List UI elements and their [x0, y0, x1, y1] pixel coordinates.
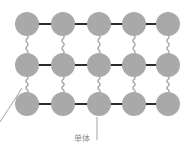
monomer-node: [15, 12, 39, 36]
monomer-lattice-diagram: 单体: [0, 0, 191, 150]
wavy-crosslink: [98, 76, 100, 93]
wavy-crosslink: [133, 35, 135, 54]
monomer-label: 单体: [74, 133, 90, 143]
wavy-crosslink: [26, 35, 28, 54]
monomer-node: [87, 92, 111, 116]
wavy-crosslink: [167, 35, 169, 54]
wavy-crosslink: [133, 76, 135, 93]
monomer-node: [51, 53, 75, 77]
monomer-node: [15, 92, 39, 116]
monomer-node: [156, 12, 180, 36]
monomer-node: [51, 12, 75, 36]
monomer-node: [156, 92, 180, 116]
wavy-crosslink: [167, 76, 169, 93]
wavy-crosslink: [98, 35, 100, 54]
wavy-crosslink: [62, 76, 64, 93]
wavy-crosslink: [26, 76, 28, 93]
monomer-node: [122, 92, 146, 116]
monomer-node: [156, 53, 180, 77]
monomer-node: [51, 92, 75, 116]
monomer-node: [87, 53, 111, 77]
monomer-node: [122, 53, 146, 77]
monomer-node: [15, 53, 39, 77]
monomer-node: [122, 12, 146, 36]
monomer-node: [87, 12, 111, 36]
wavy-crosslink: [62, 35, 64, 54]
